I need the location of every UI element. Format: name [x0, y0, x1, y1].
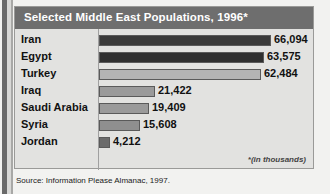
chart-bar [99, 52, 264, 63]
chart-panel: Selected Middle East Populations, 1996* … [14, 6, 314, 169]
chart-title: Selected Middle East Populations, 1996* [24, 11, 248, 23]
chart-bar-row: Iraq21,422 [15, 83, 313, 100]
chart-bar-row: Syria15,608 [15, 117, 313, 134]
chart-title-bar: Selected Middle East Populations, 1996* [15, 7, 313, 29]
chart-bar-value-label: 63,575 [267, 50, 301, 62]
chart-bar [99, 86, 155, 97]
page-spine-border [11, 0, 13, 194]
chart-bar-value-label: 4,212 [113, 135, 141, 147]
chart-bar-value-label: 66,094 [274, 33, 308, 45]
chart-bar [99, 137, 110, 148]
chart-bar [99, 103, 149, 114]
chart-bar-row: Saudi Arabia19,409 [15, 100, 313, 117]
chart-bar-row: Jordan4,212 [15, 134, 313, 151]
chart-figure: Selected Middle East Populations, 1996* … [0, 0, 330, 194]
chart-bar-row: Iran66,094 [15, 32, 313, 49]
chart-bar-row: Turkey62,484 [15, 66, 313, 83]
chart-bar-value-label: 15,608 [143, 118, 177, 130]
chart-units-footnote: *(in thousands) [248, 155, 306, 164]
chart-bar-value-label: 21,422 [158, 84, 192, 96]
chart-category-label: Syria [21, 118, 48, 130]
chart-plot-area: Iran66,094Egypt63,575Turkey62,484Iraq21,… [15, 29, 313, 168]
chart-source-note: Source: Information Please Almanac, 1997… [16, 176, 170, 185]
chart-category-label: Egypt [21, 50, 52, 62]
chart-category-label: Jordan [21, 135, 58, 147]
chart-category-label: Iran [21, 33, 41, 45]
chart-bar [99, 35, 271, 46]
chart-category-label: Iraq [21, 84, 41, 96]
chart-category-label: Saudi Arabia [21, 101, 88, 113]
chart-category-label: Turkey [21, 67, 56, 79]
chart-bar-row: Egypt63,575 [15, 49, 313, 66]
chart-bar-value-label: 19,409 [152, 101, 186, 113]
chart-bar [99, 69, 261, 80]
chart-bar-value-label: 62,484 [264, 67, 298, 79]
chart-bar [99, 120, 140, 131]
